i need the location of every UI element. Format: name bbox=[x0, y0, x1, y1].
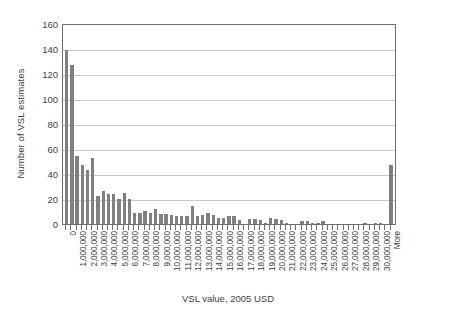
y-tick-label: 0 bbox=[53, 219, 58, 230]
x-tick-mark bbox=[332, 225, 333, 230]
bar bbox=[112, 194, 115, 225]
y-tick-label: 80 bbox=[47, 119, 58, 130]
x-tick-mark bbox=[65, 225, 66, 230]
x-tick-mark bbox=[259, 225, 260, 230]
x-tick-mark bbox=[159, 225, 160, 230]
y-axis-tick-labels: 020406080100120140160 bbox=[22, 0, 58, 318]
x-tick-mark bbox=[133, 225, 134, 230]
x-tick-mark bbox=[311, 225, 312, 230]
y-tick-label: 60 bbox=[47, 144, 58, 155]
x-tick-label: More bbox=[393, 231, 402, 249]
y-tick-label: 160 bbox=[42, 19, 58, 30]
x-tick-mark bbox=[165, 225, 166, 230]
x-tick-mark bbox=[154, 225, 155, 230]
x-tick-mark bbox=[379, 225, 380, 230]
x-tick-mark bbox=[76, 225, 77, 230]
bar bbox=[143, 211, 146, 225]
x-tick-mark bbox=[212, 225, 213, 230]
x-tick-mark bbox=[384, 225, 385, 230]
x-tick-mark bbox=[390, 225, 391, 230]
x-tick-mark bbox=[343, 225, 344, 230]
bar bbox=[65, 50, 68, 225]
x-tick-mark bbox=[264, 225, 265, 230]
x-tick-mark bbox=[107, 225, 108, 230]
x-tick-mark bbox=[138, 225, 139, 230]
x-tick-mark bbox=[280, 225, 281, 230]
x-tick-mark bbox=[97, 225, 98, 230]
x-tick-label-slot: More bbox=[388, 231, 393, 289]
x-tick-mark bbox=[206, 225, 207, 230]
bar bbox=[75, 156, 78, 225]
x-tick-mark bbox=[196, 225, 197, 230]
x-tick-mark bbox=[201, 225, 202, 230]
bar-slot bbox=[389, 25, 394, 225]
x-tick-mark bbox=[112, 225, 113, 230]
y-tick-label: 40 bbox=[47, 169, 58, 180]
bar bbox=[154, 209, 157, 225]
x-tick-mark bbox=[117, 225, 118, 230]
x-tick-mark bbox=[227, 225, 228, 230]
bar bbox=[86, 170, 89, 225]
x-tick-mark bbox=[123, 225, 124, 230]
plot-area bbox=[62, 24, 396, 225]
x-tick-mark bbox=[217, 225, 218, 230]
bar bbox=[70, 65, 73, 225]
x-tick-mark bbox=[301, 225, 302, 230]
x-tick-mark bbox=[186, 225, 187, 230]
x-tick-mark bbox=[348, 225, 349, 230]
y-tick-label: 20 bbox=[47, 194, 58, 205]
x-tick-mark bbox=[81, 225, 82, 230]
bar bbox=[102, 191, 105, 225]
bar bbox=[107, 194, 110, 225]
x-tick-mark bbox=[374, 225, 375, 230]
x-tick-mark bbox=[316, 225, 317, 230]
x-axis-title: VSL value, 2005 USD bbox=[62, 293, 394, 304]
x-tick-mark bbox=[222, 225, 223, 230]
bar bbox=[96, 196, 99, 225]
histogram-chart: Number of VSL estimates 0204060801001201… bbox=[0, 0, 454, 318]
x-tick-mark bbox=[322, 225, 323, 230]
x-tick-mark bbox=[353, 225, 354, 230]
bar bbox=[91, 158, 94, 226]
x-tick-mark bbox=[238, 225, 239, 230]
x-tick-mark bbox=[285, 225, 286, 230]
x-tick-mark bbox=[306, 225, 307, 230]
x-tick-mark bbox=[327, 225, 328, 230]
x-tick-mark bbox=[248, 225, 249, 230]
x-tick-mark bbox=[363, 225, 364, 230]
x-tick-mark bbox=[274, 225, 275, 230]
x-tick-mark bbox=[86, 225, 87, 230]
x-tick-mark bbox=[254, 225, 255, 230]
x-tick-mark bbox=[170, 225, 171, 230]
y-tick-label: 140 bbox=[42, 44, 58, 55]
y-tick-label: 120 bbox=[42, 69, 58, 80]
bar bbox=[117, 199, 120, 225]
x-axis-tick-labels: 01,000,0002,000,0003,000,0004,000,0005,0… bbox=[62, 231, 394, 289]
x-tick-mark bbox=[369, 225, 370, 230]
x-tick-mark bbox=[269, 225, 270, 230]
x-tick-mark bbox=[175, 225, 176, 230]
x-tick-mark bbox=[191, 225, 192, 230]
x-tick-mark bbox=[70, 225, 71, 230]
bar bbox=[128, 199, 131, 225]
y-tick-label: 100 bbox=[42, 94, 58, 105]
x-tick-mark bbox=[337, 225, 338, 230]
bar-series bbox=[63, 25, 395, 225]
x-tick-mark bbox=[102, 225, 103, 230]
bar bbox=[81, 165, 84, 225]
x-tick-mark bbox=[149, 225, 150, 230]
x-tick-mark bbox=[144, 225, 145, 230]
bar bbox=[123, 193, 126, 226]
bar bbox=[191, 206, 194, 225]
x-tick-mark bbox=[290, 225, 291, 230]
x-tick-mark bbox=[295, 225, 296, 230]
x-tick-mark bbox=[180, 225, 181, 230]
x-tick-mark bbox=[128, 225, 129, 230]
x-tick-mark bbox=[233, 225, 234, 230]
x-tick-mark bbox=[358, 225, 359, 230]
x-tick-mark bbox=[243, 225, 244, 230]
bar bbox=[389, 165, 392, 225]
x-tick-mark bbox=[91, 225, 92, 230]
